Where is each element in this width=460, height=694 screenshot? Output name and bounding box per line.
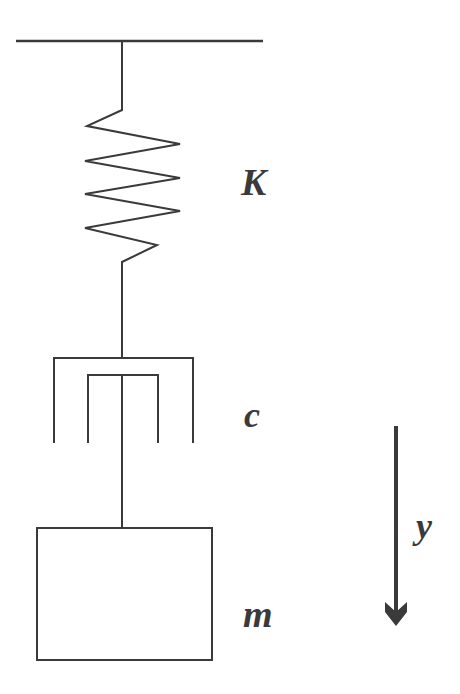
spring-mass-damper-diagram: K c m y (0, 0, 460, 694)
damper-label: c (244, 395, 260, 435)
spring-label: K (240, 161, 269, 203)
damper-cylinder (54, 358, 193, 443)
mass-label: m (243, 593, 273, 635)
mass-block (37, 528, 212, 660)
displacement-label: y (412, 506, 433, 546)
spring (85, 41, 180, 358)
